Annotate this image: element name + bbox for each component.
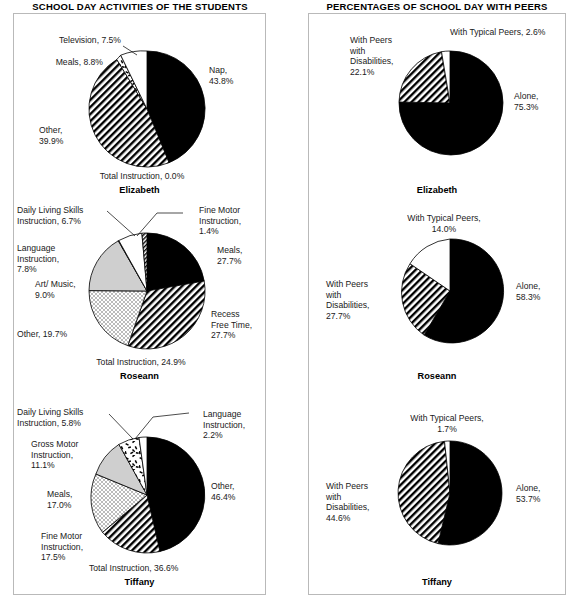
label-total-instruction: Total Instruction, 36.6%	[89, 563, 237, 574]
chart-title-elizabeth: Elizabeth	[308, 185, 566, 195]
label-alone: Alone, 75.3%	[514, 91, 564, 112]
label-art-music: Art/ Music, 9.0%	[35, 279, 101, 300]
label-alone: Alone, 58.3%	[516, 281, 564, 302]
label-language-instruction: Language Instruction, 7.8%	[17, 243, 89, 275]
chart-tiffany-peers: With Typical Peers, 1.7% With Peers with…	[308, 385, 566, 595]
label-with-peers-disabilities: With Peers with Disabilities, 44.6%	[326, 481, 392, 523]
label-nap: Nap, 43.8%	[209, 65, 265, 86]
label-daily-living-skills: Daily Living Skills Instruction, 6.7%	[17, 205, 123, 226]
label-meals: Meals, 27.7%	[217, 245, 265, 266]
label-daily-living-skills: Daily Living Skills Instruction, 5.8%	[17, 407, 125, 428]
label-meals: Meals, 8.8%	[17, 57, 103, 68]
label-television: Television, 7.5%	[17, 35, 121, 46]
label-meals: Meals, 17.0%	[47, 489, 97, 510]
figure-root: SCHOOL DAY ACTIVITIES OF THE STUDENTS PE…	[0, 0, 579, 608]
label-total-instruction: Total Instruction, 0.0%	[65, 171, 219, 182]
label-total-instruction: Total Instruction, 24.9%	[61, 357, 221, 368]
left-column-header: SCHOOL DAY ACTIVITIES OF THE STUDENTS	[14, 1, 266, 12]
label-with-typical-peers: With Typical Peers, 2.6%	[450, 27, 566, 38]
label-with-peers-disabilities: With Peers with Disabilities, 27.7%	[326, 279, 392, 321]
chart-title-elizabeth: Elizabeth	[13, 185, 266, 195]
chart-title-tiffany: Tiffany	[13, 577, 266, 587]
label-fine-motor-instruction: Fine Motor Instruction, 17.5%	[41, 531, 111, 563]
label-with-typical-peers: With Typical Peers, 1.7%	[378, 413, 516, 434]
chart-elizabeth-activities: Television, 7.5% Meals, 8.8% Nap, 43.8% …	[13, 13, 266, 199]
chart-roseann-peers: With Typical Peers, 14.0% With Peers wit…	[308, 199, 566, 385]
label-language-instruction: Language Instruction, 2.2%	[203, 409, 265, 441]
label-alone: Alone, 53.7%	[516, 483, 564, 504]
chart-tiffany-activities: Daily Living Skills Instruction, 5.8% Gr…	[13, 385, 266, 595]
chart-title-roseann: Roseann	[13, 371, 266, 381]
label-with-peers-disabilities: With Peers with Disabilities, 22.1%	[350, 35, 416, 77]
label-recess-free-time: Recess Free Time, 27.7%	[211, 309, 265, 341]
label-other: Other, 46.4%	[211, 481, 263, 502]
label-other: Other, 19.7%	[17, 329, 97, 340]
chart-elizabeth-peers: With Typical Peers, 2.6% With Peers with…	[308, 13, 566, 199]
chart-title-roseann: Roseann	[308, 371, 566, 381]
right-column-header: PERCENTAGES OF SCHOOL DAY WITH PEERS	[308, 1, 566, 12]
label-gross-motor-instruction: Gross Motor Instruction, 11.1%	[31, 439, 109, 471]
label-with-typical-peers: With Typical Peers, 14.0%	[376, 213, 512, 234]
label-fine-motor-instruction: Fine Motor Instruction, 1.4%	[199, 205, 265, 237]
chart-title-tiffany: Tiffany	[308, 577, 566, 587]
label-other: Other, 39.9%	[39, 125, 95, 146]
chart-roseann-activities: Daily Living Skills Instruction, 6.7% La…	[13, 199, 266, 385]
